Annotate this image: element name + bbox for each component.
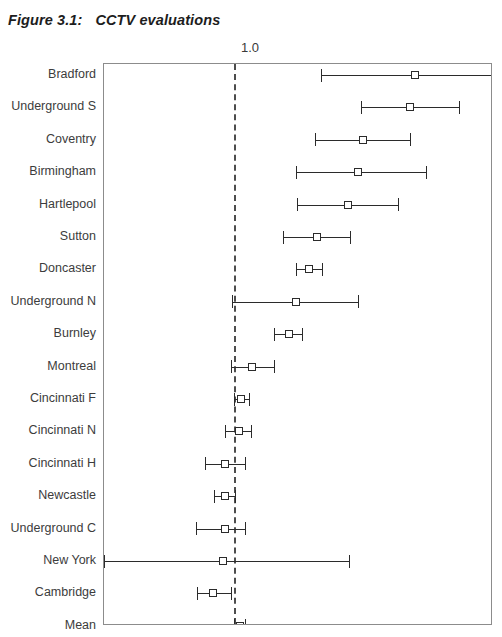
ci-upper-cap xyxy=(398,198,399,211)
ci-lower-cap xyxy=(321,69,322,82)
ci-lower-cap xyxy=(361,101,362,114)
figure-title: Figure 3.1:CCTV evaluations xyxy=(8,12,220,28)
ci-upper-cap xyxy=(459,101,460,114)
category-label: Hartlepool xyxy=(0,197,96,211)
category-label: Cincinnati N xyxy=(0,423,96,437)
ci-upper-cap xyxy=(249,393,250,406)
point-estimate-marker xyxy=(292,298,300,306)
ci-lower-cap xyxy=(274,328,275,341)
point-estimate-marker xyxy=(305,265,313,273)
point-estimate-marker xyxy=(359,136,367,144)
figure-title-text: CCTV evaluations xyxy=(95,12,220,28)
point-estimate-marker xyxy=(236,622,244,625)
ci-upper-cap xyxy=(322,263,323,276)
ci-lower-cap xyxy=(315,133,316,146)
ci-lower-cap xyxy=(231,360,232,373)
point-estimate-marker xyxy=(221,492,229,500)
ci-upper-cap xyxy=(410,133,411,146)
point-estimate-marker xyxy=(248,363,256,371)
category-label: Cincinnati F xyxy=(0,391,96,405)
category-label: Sutton xyxy=(0,229,96,243)
category-label: Doncaster xyxy=(0,261,96,275)
ci-upper-cap xyxy=(426,166,427,179)
ci-upper-cap xyxy=(245,522,246,535)
category-label: Burnley xyxy=(0,326,96,340)
plot-area xyxy=(103,63,492,625)
point-estimate-marker xyxy=(285,330,293,338)
point-estimate-marker xyxy=(219,557,227,565)
point-estimate-marker xyxy=(221,525,229,533)
category-label: Coventry xyxy=(0,132,96,146)
point-estimate-marker xyxy=(313,233,321,241)
x-axis-tick-label: 1.0 xyxy=(241,40,259,55)
category-label: Newcastle xyxy=(0,488,96,502)
point-estimate-marker xyxy=(411,71,419,79)
ci-upper-cap xyxy=(358,295,359,308)
point-estimate-marker xyxy=(209,589,217,597)
ci-lower-cap xyxy=(296,263,297,276)
point-estimate-marker xyxy=(221,460,229,468)
ci-lower-cap xyxy=(196,522,197,535)
category-label: Bradford xyxy=(0,67,96,81)
ci-lower-cap xyxy=(296,166,297,179)
point-estimate-marker xyxy=(344,201,352,209)
point-estimate-marker xyxy=(235,427,243,435)
ci-lower-cap xyxy=(104,555,105,568)
ci-upper-cap xyxy=(235,490,236,503)
point-estimate-marker xyxy=(237,395,245,403)
ci-upper-cap xyxy=(245,457,246,470)
ci-lower-cap xyxy=(197,587,198,600)
ci-lower-cap xyxy=(214,490,215,503)
point-estimate-marker xyxy=(354,168,362,176)
ci-upper-cap xyxy=(231,587,232,600)
category-label: Mean xyxy=(0,618,96,632)
ci-lower-cap xyxy=(297,198,298,211)
category-label: Underground C xyxy=(0,521,96,535)
ci-upper-cap xyxy=(251,425,252,438)
ci-upper-cap xyxy=(302,328,303,341)
category-label: Underground S xyxy=(0,99,96,113)
ci-lower-cap xyxy=(234,393,235,406)
category-label: New York xyxy=(0,553,96,567)
category-label: Birmingham xyxy=(0,164,96,178)
category-label: Cambridge xyxy=(0,585,96,599)
category-label: Cincinnati H xyxy=(0,456,96,470)
ci-upper-cap xyxy=(350,231,351,244)
ci-lower-cap xyxy=(225,425,226,438)
reference-line xyxy=(234,64,236,624)
figure-number: Figure 3.1: xyxy=(8,12,82,28)
point-estimate-marker xyxy=(406,103,414,111)
ci-upper-cap xyxy=(274,360,275,373)
category-label: Montreal xyxy=(0,359,96,373)
category-label: Underground N xyxy=(0,294,96,308)
ci-lower-cap xyxy=(232,295,233,308)
category-label-column: BradfordUnderground SCoventryBirminghamH… xyxy=(0,63,96,625)
ci-lower-cap xyxy=(234,619,235,625)
figure-container: Figure 3.1:CCTV evaluations 1.0 Bradford… xyxy=(0,0,502,637)
ci-upper-cap xyxy=(349,555,350,568)
confidence-interval-line xyxy=(321,75,492,76)
ci-lower-cap xyxy=(205,457,206,470)
ci-upper-cap xyxy=(245,619,246,625)
ci-lower-cap xyxy=(283,231,284,244)
